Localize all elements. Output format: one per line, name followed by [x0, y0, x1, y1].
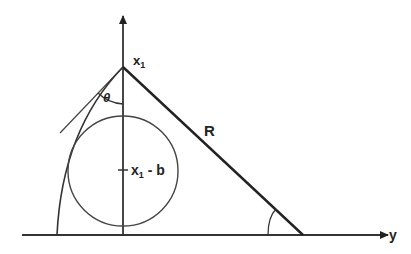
arc-curve	[57, 67, 123, 235]
apex-label: x1	[133, 53, 145, 70]
hypotenuse-label: R	[204, 122, 215, 139]
theta-angle-arc	[98, 93, 123, 104]
base-angle-arc	[268, 209, 276, 235]
y-axis-label: y	[389, 227, 397, 243]
theta-label: θ	[103, 90, 110, 105]
center-label: x1 - b	[131, 162, 165, 180]
diagram-canvas: x1 R x1 - b θ y	[0, 0, 411, 254]
